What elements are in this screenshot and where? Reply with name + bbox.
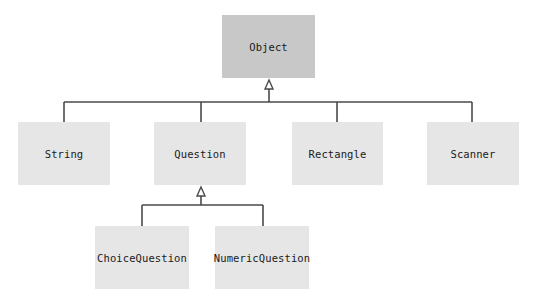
class-choicequestion: ChoiceQuestion (95, 226, 189, 289)
class-hierarchy-diagram: Object String Question Rectangle Scanner… (0, 0, 534, 307)
class-question: Question (154, 122, 246, 185)
class-label: Rectangle (309, 148, 367, 160)
question-inheritance-tree (142, 187, 263, 226)
class-label: NumericQuestion (214, 252, 310, 264)
inheritance-arrow-icon (265, 80, 273, 89)
class-object: Object (222, 15, 315, 78)
class-label: Scanner (451, 148, 496, 160)
class-scanner: Scanner (427, 122, 519, 185)
class-numericquestion: NumericQuestion (215, 226, 309, 289)
class-label: ChoiceQuestion (97, 252, 187, 264)
class-label: Question (174, 148, 225, 160)
class-rectangle: Rectangle (292, 122, 383, 185)
object-inheritance-tree (64, 80, 472, 122)
inheritance-arrow-icon (197, 187, 205, 196)
class-label: Object (249, 41, 288, 53)
class-label: String (45, 148, 84, 160)
class-string: String (18, 122, 110, 185)
